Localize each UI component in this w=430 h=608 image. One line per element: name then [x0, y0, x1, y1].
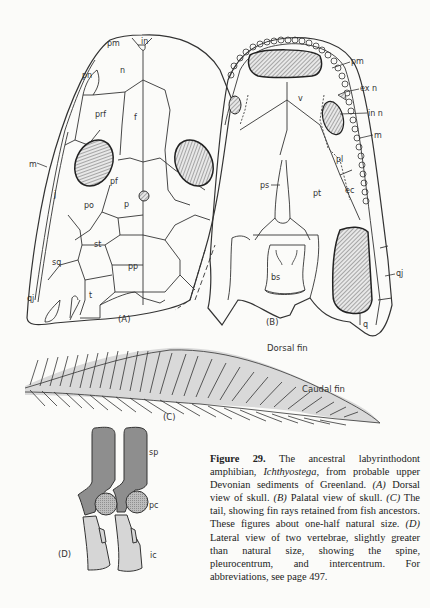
svg-text:ps: ps — [260, 181, 269, 190]
internal-naris-left — [229, 96, 241, 114]
svg-text:pl: pl — [336, 155, 343, 164]
svg-text:p: p — [124, 200, 129, 209]
svg-text:f: f — [134, 113, 137, 122]
svg-text:qj: qj — [27, 294, 34, 303]
svg-text:j: j — [53, 190, 56, 199]
svg-text:prf: prf — [95, 110, 106, 119]
svg-text:in n: in n — [368, 109, 383, 118]
choana-anterior — [249, 50, 322, 78]
svg-text:bs: bs — [271, 273, 280, 282]
orbit-right — [168, 134, 221, 193]
panel-d-label: (D) — [58, 549, 71, 559]
svg-text:po: po — [84, 201, 94, 210]
panel-b-labels: pm ex n in n m v pl ps pt ec bs qj q (B) — [260, 57, 403, 329]
svg-text:pp: pp — [128, 262, 138, 271]
svg-text:pc: pc — [149, 501, 158, 510]
svg-text:pt: pt — [313, 189, 321, 198]
svg-text:m: m — [29, 160, 37, 169]
svg-text:st: st — [94, 240, 101, 249]
svg-text:ic: ic — [150, 551, 157, 560]
genus-name: Ichthyostega, — [263, 466, 319, 477]
svg-text:in: in — [141, 37, 148, 46]
pineal-foramen — [139, 191, 149, 201]
caudal-fin-label: Caudal fin — [302, 384, 345, 394]
svg-text:t: t — [89, 291, 92, 300]
panel-a-label: (A) — [118, 314, 130, 324]
svg-text:pf: pf — [110, 177, 118, 186]
svg-text:m: m — [374, 131, 382, 140]
svg-text:v: v — [298, 94, 303, 103]
svg-text:sq: sq — [52, 258, 61, 267]
subtemporal-fenestra — [333, 227, 372, 313]
panel-c-tail: Dorsal fin Caudal fin (C) — [25, 343, 380, 425]
figure-number: Figure 29. — [210, 453, 266, 464]
panel-d-vertebrae — [78, 427, 148, 571]
svg-text:pm: pm — [351, 57, 364, 66]
svg-text:sp: sp — [149, 448, 158, 457]
svg-text:qj: qj — [396, 269, 403, 278]
svg-text:ex n: ex n — [360, 84, 377, 93]
panel-c-label: (C) — [163, 412, 176, 422]
svg-text:pn: pn — [82, 71, 92, 80]
internal-naris — [319, 99, 347, 137]
figure-caption: Figure 29. The ancestral labyrinthodont … — [210, 452, 420, 583]
svg-text:pm: pm — [107, 39, 120, 48]
dorsal-fin-label: Dorsal fin — [267, 343, 308, 353]
svg-text:ec: ec — [345, 186, 354, 195]
panel-b-label: (B) — [266, 317, 278, 327]
svg-text:n: n — [120, 66, 125, 75]
svg-text:q: q — [363, 320, 368, 329]
